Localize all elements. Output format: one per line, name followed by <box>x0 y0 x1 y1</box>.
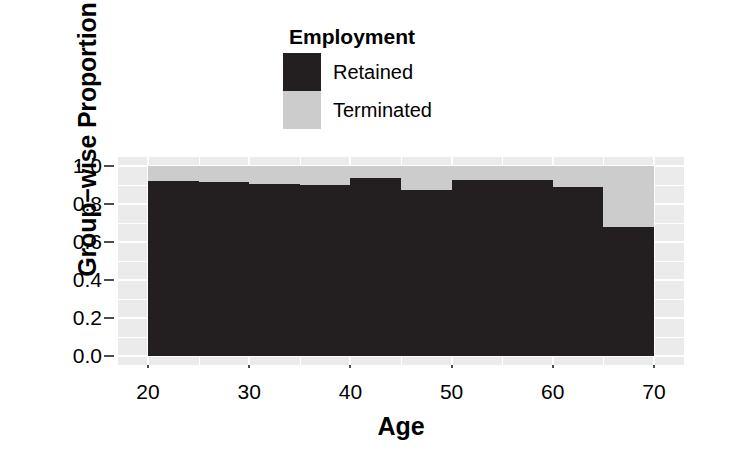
bar-segment-terminated <box>350 166 401 178</box>
y-tick-label: 0.0 <box>73 344 102 368</box>
bar-segment-retained <box>199 182 250 356</box>
bar-stack <box>148 157 199 365</box>
bar-series <box>118 157 684 365</box>
y-tick-label: 0.2 <box>73 306 102 330</box>
x-tick-label: 20 <box>125 380 171 404</box>
bar-stack <box>350 157 401 365</box>
legend-item-retained: Retained <box>283 53 513 91</box>
y-axis-tick-labels: 0.00.20.40.60.81.0 <box>46 0 102 468</box>
x-tick-label: 50 <box>429 380 475 404</box>
bar-segment-terminated <box>603 166 654 227</box>
bar-segment-retained <box>148 181 199 356</box>
bar-segment-retained <box>502 180 553 356</box>
legend: Employment Retained Terminated <box>283 24 513 129</box>
bar-segment-terminated <box>148 166 199 181</box>
bar-segment-retained <box>603 227 654 356</box>
bar-segment-retained <box>350 178 401 356</box>
y-tick-label: 1.0 <box>73 154 102 178</box>
bar-stack <box>249 157 300 365</box>
bar-stack <box>300 157 351 365</box>
legend-swatch-terminated <box>283 91 321 129</box>
x-axis-title: Age <box>118 412 684 441</box>
bar-segment-terminated <box>502 166 553 180</box>
y-tick-mark <box>104 241 114 243</box>
y-tick-mark <box>104 165 114 167</box>
chart-figure: Employment Retained Terminated Group−wis… <box>0 0 729 468</box>
bar-segment-terminated <box>401 166 452 190</box>
legend-label-terminated: Terminated <box>333 91 432 129</box>
bar-segment-terminated <box>553 166 604 187</box>
bar-segment-terminated <box>452 166 503 180</box>
bar-stack <box>199 157 250 365</box>
legend-label-retained: Retained <box>333 53 413 91</box>
y-tick-mark <box>104 279 114 281</box>
bar-segment-retained <box>300 185 351 356</box>
y-tick-mark <box>104 355 114 357</box>
bar-segment-terminated <box>300 166 351 185</box>
x-tick-label: 70 <box>631 380 677 404</box>
x-tick-label: 40 <box>327 380 373 404</box>
y-tick-mark <box>104 203 114 205</box>
bar-segment-retained <box>401 190 452 356</box>
bar-segment-terminated <box>249 166 300 184</box>
bar-segment-retained <box>249 184 300 356</box>
bar-stack <box>502 157 553 365</box>
bar-segment-retained <box>553 187 604 356</box>
x-tick-label: 60 <box>530 380 576 404</box>
y-tick-mark <box>104 317 114 319</box>
plot-panel <box>118 157 684 365</box>
bar-stack <box>401 157 452 365</box>
bar-segment-retained <box>452 180 503 356</box>
y-tick-label: 0.4 <box>73 268 102 292</box>
legend-items: Retained Terminated <box>283 53 513 129</box>
legend-item-terminated: Terminated <box>283 91 513 129</box>
y-tick-label: 0.6 <box>73 230 102 254</box>
x-tick-label: 30 <box>226 380 272 404</box>
legend-swatch-retained <box>283 53 321 91</box>
y-tick-label: 0.8 <box>73 192 102 216</box>
bar-segment-terminated <box>199 166 250 182</box>
bar-stack <box>603 157 654 365</box>
bar-stack <box>553 157 604 365</box>
legend-title: Employment <box>289 24 513 50</box>
bar-stack <box>452 157 503 365</box>
